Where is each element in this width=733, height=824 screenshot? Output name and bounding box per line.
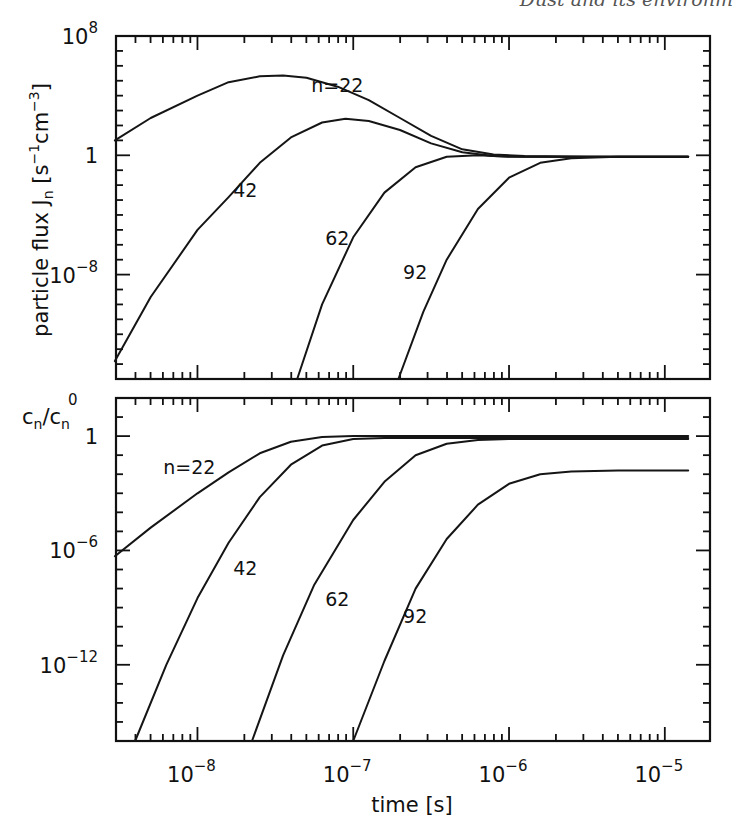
curve-n-22 xyxy=(115,76,688,157)
y-tick-label: 1 xyxy=(85,425,98,449)
curve-label: 62 xyxy=(325,227,349,249)
curve-label: 92 xyxy=(403,605,427,627)
top-y-axis-title: particle flux Jn [s−1cm−3] xyxy=(26,83,56,337)
curve-label: 42 xyxy=(233,179,257,201)
plot-frame xyxy=(116,398,710,741)
bottom-y-axis-title: cn/cn0 xyxy=(22,391,77,432)
curve-label: 42 xyxy=(233,557,257,579)
curve-n-62 xyxy=(252,439,688,741)
x-tick-label: 10−6 xyxy=(479,757,528,787)
x-axis-title: time [s] xyxy=(371,793,452,817)
y-tick-label: 10−6 xyxy=(49,533,98,563)
curve-label: n=22 xyxy=(311,74,363,96)
y-tick-label: 10−8 xyxy=(49,258,98,288)
top-panel-particle-flux: 108110−8n=22426292 xyxy=(49,19,710,379)
x-tick-label: 10−7 xyxy=(323,757,372,787)
y-tick-label: 108 xyxy=(62,19,98,49)
curve-label: n=22 xyxy=(163,456,215,478)
curve-n-22 xyxy=(115,436,688,556)
bottom-panel-concentration-ratio: 110−610−1210−810−710−610−5n=22426292 xyxy=(40,398,710,787)
y-tick-label: 1 xyxy=(85,144,98,168)
y-tick-label: 10−12 xyxy=(40,648,98,678)
curve-n-62 xyxy=(297,155,688,379)
x-tick-label: 10−8 xyxy=(167,757,216,787)
curve-n-42 xyxy=(115,119,688,361)
curve-label: 92 xyxy=(403,261,427,283)
x-tick-label: 10−5 xyxy=(634,757,683,787)
curve-n-42 xyxy=(135,438,688,741)
curve-label: 62 xyxy=(325,588,349,610)
plot-frame xyxy=(116,36,710,379)
curve-n-92 xyxy=(398,157,688,379)
